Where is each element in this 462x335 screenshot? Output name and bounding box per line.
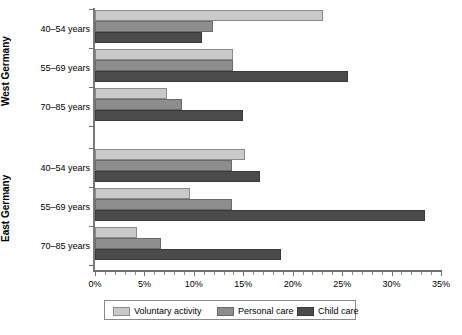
x-axis-minor-tick xyxy=(431,272,432,275)
x-axis-tick-label: 35% xyxy=(426,279,456,290)
x-axis-minor-tick xyxy=(105,272,106,275)
category-label-east-40-54: 40–54 years xyxy=(16,163,90,173)
x-axis-minor-tick xyxy=(401,272,402,275)
x-axis-minor-tick xyxy=(154,272,155,275)
bar-child-care xyxy=(95,110,243,121)
x-axis-minor-tick xyxy=(372,272,373,275)
bar-voluntary-activity xyxy=(95,49,233,60)
bar-group xyxy=(95,227,441,260)
x-axis-minor-tick xyxy=(115,272,116,275)
bar-child-care xyxy=(95,210,425,221)
voluntary-activity-swatch xyxy=(113,307,130,316)
bar-voluntary-activity xyxy=(95,10,323,21)
grouped-bar-chart: West Germany East Germany 40–54 years 55… xyxy=(0,0,462,335)
x-axis-tick-label: 20% xyxy=(278,279,308,290)
x-axis-major-tick xyxy=(392,272,393,276)
bar-personal-care xyxy=(95,99,182,110)
x-axis-tick-label: 15% xyxy=(228,279,258,290)
x-axis-minor-tick xyxy=(362,272,363,275)
x-axis-minor-tick xyxy=(332,272,333,275)
category-label-east-55-69: 55–69 years xyxy=(16,202,90,212)
x-axis-minor-tick xyxy=(204,272,205,275)
x-axis-minor-tick xyxy=(322,272,323,275)
x-axis-minor-tick xyxy=(214,272,215,275)
x-axis-minor-tick xyxy=(352,272,353,275)
x-axis-major-tick xyxy=(342,272,343,276)
bar-voluntary-activity xyxy=(95,188,190,199)
child-care-swatch xyxy=(297,307,314,316)
category-label-west-70-85: 70–85 years xyxy=(16,102,90,112)
x-axis-minor-tick xyxy=(273,272,274,275)
bar-voluntary-activity xyxy=(95,149,245,160)
bar-group xyxy=(95,188,441,221)
legend-item-voluntary-activity[interactable]: Voluntary activity xyxy=(113,305,202,317)
bar-voluntary-activity xyxy=(95,227,137,238)
x-axis-minor-tick xyxy=(224,272,225,275)
legend-label: Personal care xyxy=(238,306,294,316)
x-axis-minor-tick xyxy=(411,272,412,275)
x-axis-tick-label: 0% xyxy=(80,279,110,290)
x-axis-tick-label: 10% xyxy=(179,279,209,290)
x-axis-minor-tick xyxy=(303,272,304,275)
chart-legend: Voluntary activity Personal care Child c… xyxy=(104,300,356,320)
x-axis-major-tick xyxy=(194,272,195,276)
plot-area xyxy=(95,8,441,271)
x-axis-major-tick xyxy=(441,272,442,276)
category-label-east-70-85: 70–85 years xyxy=(16,241,90,251)
legend-label: Child care xyxy=(318,306,359,316)
x-axis-minor-tick xyxy=(312,272,313,275)
x-axis-minor-tick xyxy=(164,272,165,275)
bar-personal-care xyxy=(95,199,232,210)
bar-group xyxy=(95,149,441,182)
bar-personal-care xyxy=(95,60,233,71)
bar-group xyxy=(95,49,441,82)
bar-child-care xyxy=(95,249,281,260)
x-axis-minor-tick xyxy=(125,272,126,275)
x-axis-major-tick xyxy=(243,272,244,276)
x-axis-minor-tick xyxy=(283,272,284,275)
x-axis-minor-tick xyxy=(421,272,422,275)
x-axis-major-tick xyxy=(144,272,145,276)
x-axis-minor-tick xyxy=(263,272,264,275)
x-axis-tick-label: 30% xyxy=(377,279,407,290)
x-axis-major-tick xyxy=(95,272,96,276)
legend-item-child-care[interactable]: Child care xyxy=(297,305,359,317)
category-label-column: 40–54 years 55–69 years 70–85 years 40–5… xyxy=(10,0,90,263)
legend-label: Voluntary activity xyxy=(134,306,202,316)
x-axis-minor-tick xyxy=(184,272,185,275)
x-axis-minor-tick xyxy=(174,272,175,275)
x-axis-minor-tick xyxy=(253,272,254,275)
category-label-west-55-69: 55–69 years xyxy=(16,63,90,73)
bar-group xyxy=(95,10,441,43)
personal-care-swatch xyxy=(217,307,234,316)
category-label-west-40-54: 40–54 years xyxy=(16,24,90,34)
x-axis-minor-tick xyxy=(382,272,383,275)
bar-personal-care xyxy=(95,21,213,32)
bar-personal-care xyxy=(95,160,232,171)
bar-child-care xyxy=(95,32,202,43)
bar-personal-care xyxy=(95,238,161,249)
bar-group xyxy=(95,88,441,121)
bar-child-care xyxy=(95,171,260,182)
x-axis-minor-tick xyxy=(135,272,136,275)
x-axis-major-tick xyxy=(293,272,294,276)
x-axis-minor-tick xyxy=(233,272,234,275)
x-axis-tick-label: 25% xyxy=(327,279,357,290)
legend-item-personal-care[interactable]: Personal care xyxy=(217,305,294,317)
bar-child-care xyxy=(95,71,348,82)
x-axis-tick-label: 5% xyxy=(129,279,159,290)
bar-voluntary-activity xyxy=(95,88,167,99)
